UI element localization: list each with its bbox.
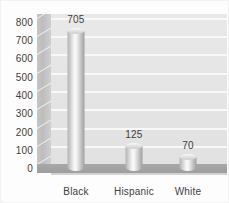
chart-floor-edge <box>51 173 227 175</box>
category-label-white: White <box>153 186 223 197</box>
y-tick-label: 100 <box>1 146 33 156</box>
y-tick-label: 500 <box>1 73 33 83</box>
y-tick-label: 700 <box>1 36 33 46</box>
y-tick-label: 0 <box>1 164 33 174</box>
bar-value-label: 125 <box>125 130 142 140</box>
bar-value-label: 70 <box>182 141 194 151</box>
y-axis: 800 700 600 500 400 300 200 100 0 <box>1 1 35 203</box>
y-tick-label: 400 <box>1 91 33 101</box>
bar-group-hispanic: 125 <box>107 0 161 171</box>
y-tick-label: 300 <box>1 109 33 119</box>
bar-cap <box>68 28 85 34</box>
bar-hispanic <box>126 146 143 171</box>
bar-group-black: 705 <box>49 0 103 171</box>
y-tick-label: 800 <box>1 18 33 28</box>
bar-chart-figure: 800 700 600 500 400 300 200 100 0 <box>0 0 229 203</box>
bar-group-white: 70 <box>161 0 215 171</box>
y-tick-label: 600 <box>1 54 33 64</box>
bar-black <box>68 31 85 171</box>
bar-white <box>180 157 197 171</box>
bar-cap <box>126 143 143 149</box>
y-tick-label: 200 <box>1 128 33 138</box>
bar-value-label: 705 <box>67 15 84 25</box>
bar-cap <box>180 154 197 160</box>
